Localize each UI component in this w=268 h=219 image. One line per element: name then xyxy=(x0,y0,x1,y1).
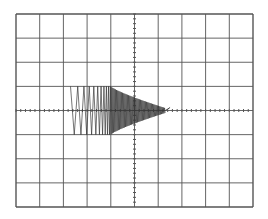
oscilloscope-display xyxy=(0,0,268,219)
